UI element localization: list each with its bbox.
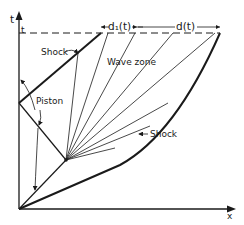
piston-pointer-mid [39, 110, 41, 125]
piston-pointer-low [35, 128, 38, 190]
time-t-label: t [21, 26, 25, 35]
d-label: d(t) [176, 21, 195, 32]
piston-label: Piston [36, 97, 63, 106]
t-axis-arrow-icon [16, 11, 23, 20]
t-axis-label: t [10, 14, 14, 25]
fan-origin-point [64, 158, 68, 162]
t-axis [16, 11, 23, 209]
diagram-canvas [0, 0, 244, 225]
wave-zone-label: Wave zone [107, 58, 156, 67]
upper-shock-label: Shock [41, 48, 68, 57]
piston-path [19, 103, 66, 209]
d1-label: d₁(t) [108, 21, 131, 32]
wave-fan [66, 33, 215, 160]
x-axis-label: x [227, 212, 232, 221]
space-time-diagram: t t x Shock Piston Wave zone Shock d₁(t)… [0, 0, 244, 225]
x-axis [19, 206, 236, 213]
lower-shock-label: Shock [150, 130, 177, 139]
